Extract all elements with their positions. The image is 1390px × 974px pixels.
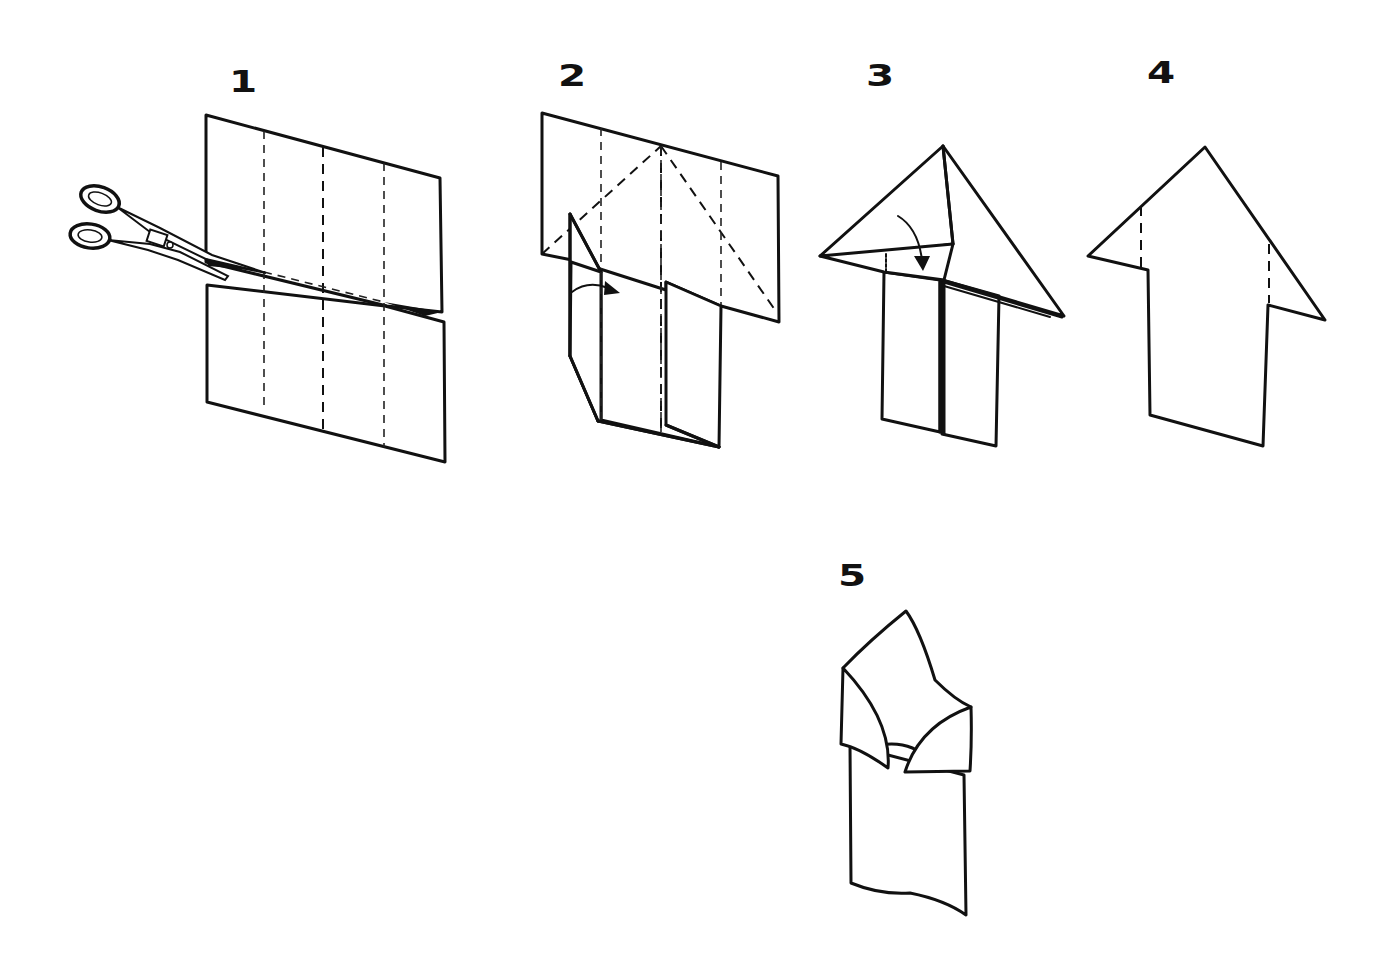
step-4-figure	[1088, 147, 1325, 446]
step-3-body	[882, 272, 940, 432]
step-3-body-right	[942, 280, 999, 446]
step-1-figure	[69, 115, 445, 462]
step-1-upper-sheet	[206, 115, 442, 312]
step-1-lower-sheet	[207, 285, 445, 462]
step-5-figure	[841, 611, 971, 915]
step-3-figure	[820, 146, 1064, 446]
folding-diagram	[0, 0, 1390, 974]
step-2-figure	[542, 113, 779, 447]
step-3-left-triangle	[820, 146, 953, 256]
step-2-lower-right-flap	[666, 282, 721, 447]
step-4-arrow-shape	[1088, 147, 1325, 446]
